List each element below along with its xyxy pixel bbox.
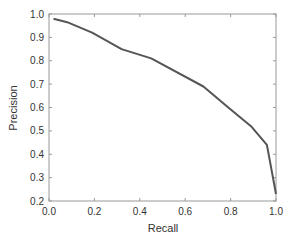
y-tick-label: 0.8 [30,55,44,66]
x-tick-label: 0.8 [224,206,238,217]
y-tick-label: 0.4 [30,149,44,160]
precision-recall-chart: 0.00.20.40.60.81.00.20.30.40.50.60.70.80… [0,0,291,240]
x-tick-label: 0.4 [133,206,147,217]
axes-frame [49,14,276,201]
x-tick-label: 0.2 [87,206,101,217]
y-tick-label: 0.6 [30,102,44,113]
y-tick-label: 1.0 [30,9,44,20]
x-tick-label: 1.0 [269,206,283,217]
plot-area: 0.00.20.40.60.81.00.20.30.40.50.60.70.80… [30,9,283,218]
y-tick-label: 0.9 [30,32,44,43]
y-tick-label: 0.3 [30,172,44,183]
y-tick-label: 0.2 [30,196,44,207]
x-axis-label: Recall [148,222,179,234]
x-tick-label: 0.6 [178,206,192,217]
y-tick-label: 0.5 [30,125,44,136]
y-tick-label: 0.7 [30,79,44,90]
series-line [54,19,277,194]
x-tick-label: 0.0 [42,206,56,217]
y-axis-label: Precision [7,85,19,130]
